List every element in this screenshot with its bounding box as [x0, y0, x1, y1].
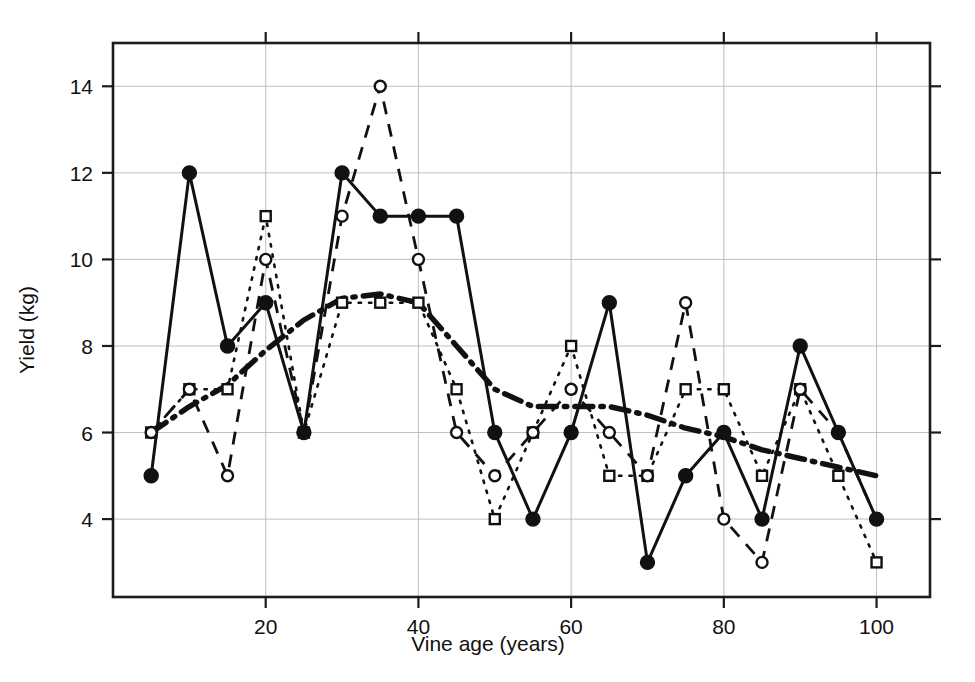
data-point-marker-open-circle	[566, 384, 577, 395]
data-point-marker-open-circle	[260, 254, 271, 265]
data-point-marker-open-square	[757, 471, 767, 481]
data-point-marker-filled-circle	[182, 166, 196, 180]
data-point-marker-open-circle	[146, 427, 157, 438]
data-point-marker-open-square	[566, 341, 576, 351]
data-point-marker-open-square	[719, 384, 729, 394]
yield-vs-vine-age-line-chart: 468101214 20406080100 Vine age (years) Y…	[0, 0, 975, 682]
y-tick-label: 14	[70, 75, 94, 98]
data-point-marker-filled-circle	[297, 426, 311, 440]
data-point-marker-filled-circle	[373, 209, 387, 223]
x-axis-title: Vine age (years)	[411, 632, 565, 655]
data-point-marker-filled-circle	[870, 512, 884, 526]
y-tick-label: 4	[81, 508, 93, 531]
data-point-marker-open-circle	[222, 470, 233, 481]
data-point-marker-filled-circle	[831, 426, 845, 440]
data-point-marker-filled-circle	[602, 296, 616, 310]
chart-figure: 468101214 20406080100 Vine age (years) Y…	[0, 0, 975, 682]
data-point-marker-open-square	[490, 514, 500, 524]
data-point-marker-open-square	[681, 384, 691, 394]
data-point-marker-open-square	[604, 471, 614, 481]
data-point-marker-filled-circle	[755, 512, 769, 526]
data-point-marker-filled-circle	[526, 512, 540, 526]
chart-background	[0, 0, 975, 682]
data-point-marker-open-circle	[718, 514, 729, 525]
data-point-marker-open-circle	[375, 81, 386, 92]
data-point-marker-open-circle	[680, 297, 691, 308]
y-tick-label: 12	[70, 162, 93, 185]
data-point-marker-filled-circle	[144, 469, 158, 483]
data-point-marker-filled-circle	[564, 426, 578, 440]
x-tick-label: 80	[712, 615, 735, 638]
data-point-marker-filled-circle	[717, 426, 731, 440]
data-point-marker-open-square	[337, 298, 347, 308]
y-axis-title: Yield (kg)	[15, 286, 38, 374]
y-tick-label: 6	[81, 422, 93, 445]
data-point-marker-open-circle	[413, 254, 424, 265]
data-point-marker-filled-circle	[221, 339, 235, 353]
data-point-marker-open-square	[413, 298, 423, 308]
data-point-marker-filled-circle	[793, 339, 807, 353]
data-point-marker-open-circle	[642, 470, 653, 481]
data-point-marker-filled-circle	[259, 296, 273, 310]
data-point-marker-open-circle	[489, 470, 500, 481]
data-point-marker-open-square	[452, 384, 462, 394]
data-point-marker-filled-circle	[335, 166, 349, 180]
data-point-marker-open-square	[223, 384, 233, 394]
data-point-marker-open-square	[872, 557, 882, 567]
data-point-marker-open-circle	[527, 427, 538, 438]
data-point-marker-filled-circle	[411, 209, 425, 223]
x-tick-label: 20	[254, 615, 277, 638]
data-point-marker-filled-circle	[679, 469, 693, 483]
data-point-marker-filled-circle	[450, 209, 464, 223]
data-point-marker-open-square	[261, 211, 271, 221]
data-point-marker-open-circle	[795, 384, 806, 395]
y-tick-label: 10	[70, 248, 93, 271]
data-point-marker-open-circle	[451, 427, 462, 438]
data-point-marker-open-square	[375, 298, 385, 308]
data-point-marker-open-circle	[757, 557, 768, 568]
data-point-marker-open-circle	[604, 427, 615, 438]
x-tick-label: 100	[859, 615, 894, 638]
data-point-marker-filled-circle	[488, 426, 502, 440]
y-tick-label: 8	[81, 335, 93, 358]
data-point-marker-open-circle	[184, 384, 195, 395]
data-point-marker-open-circle	[337, 211, 348, 222]
data-point-marker-filled-circle	[640, 555, 654, 569]
data-point-marker-open-square	[833, 471, 843, 481]
